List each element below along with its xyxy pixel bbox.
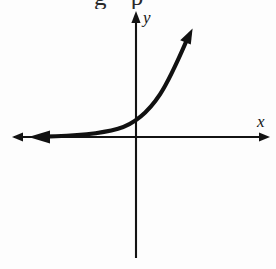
x-axis-left-arrowhead [12, 133, 23, 142]
y-axis-up-arrowhead [131, 11, 140, 23]
exponential-curve [44, 41, 186, 137]
curve-right-arrowhead [180, 28, 192, 44]
graph-figure: g p y x [0, 0, 276, 269]
graph-canvas [0, 0, 276, 269]
x-axis-right-arrowhead [259, 133, 270, 142]
curve-left-arrowhead [29, 131, 51, 144]
x-axis-label: x [257, 113, 265, 130]
y-axis-label: y [143, 9, 151, 26]
exponential-curve-group [29, 28, 193, 143]
